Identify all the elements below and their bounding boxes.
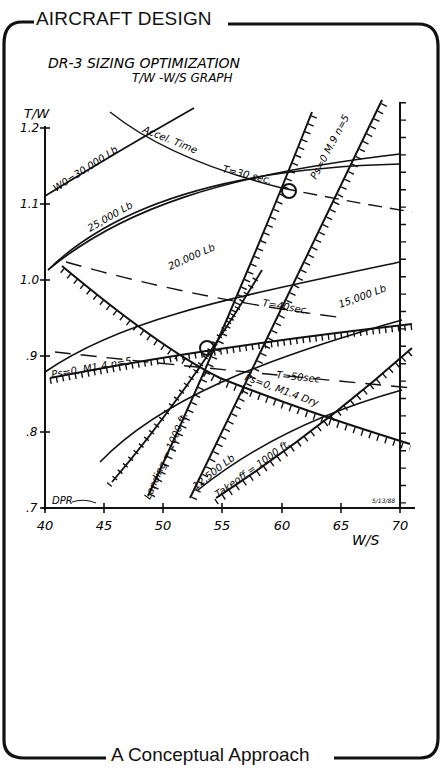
y-tick-1.0: 1.0 xyxy=(20,273,39,287)
x-tick-40: 40 xyxy=(37,518,54,533)
curve-20000 xyxy=(45,262,400,372)
x-tick-labels: 40 45 50 55 60 65 70 xyxy=(37,518,409,533)
figure-title-line2: T/W -W/S GRAPH xyxy=(132,71,233,85)
curve-labels: W0=30,000 Lb 25,000 Lb 20,000 Lb 15,000 … xyxy=(50,113,387,501)
signature-scrawl xyxy=(72,500,96,503)
constraint-ps0-m14-n5-hatch xyxy=(50,327,412,381)
label-ps0-m09-n5: Ps=0 M.9 n=5 xyxy=(308,113,351,181)
chart-canvas: DR-3 SIZING OPTIMIZATION T/W -W/S GRAPH … xyxy=(0,0,446,774)
page-frame: DR-3 SIZING OPTIMIZATION T/W -W/S GRAPH … xyxy=(0,0,446,774)
x-tick-65: 65 xyxy=(333,518,350,533)
x-tick-60: 60 xyxy=(274,518,291,533)
label-accel-time: Accel. Time xyxy=(140,123,199,155)
y-tick-1.1: 1.1 xyxy=(20,197,39,211)
y-tick-0.9: .9 xyxy=(26,349,37,363)
label-w0-30000: W0=30,000 Lb xyxy=(51,144,120,194)
curve-accel-t30-dashed xyxy=(282,188,412,212)
x-tick-45: 45 xyxy=(96,518,113,533)
y-tick-labels: 1.2 1.1 1.0 .9 .8 .7 xyxy=(20,121,39,515)
x-tick-55: 55 xyxy=(214,518,231,533)
book-subtitle: A Conceptual Approach xyxy=(109,744,312,766)
label-t50: T=50sec xyxy=(276,369,321,385)
x-tick-50: 50 xyxy=(155,518,172,533)
signature: DPR xyxy=(52,495,73,506)
label-ps0-m14-n5: Ps=0, M1.4 n=5 xyxy=(50,355,132,380)
book-title: AIRCRAFT DESIGN xyxy=(34,8,214,30)
constraint-unlabeled-hatch xyxy=(109,273,259,485)
y-tick-0.8: .8 xyxy=(26,425,38,439)
x-axis-label: W/S xyxy=(352,532,380,548)
page-border xyxy=(4,22,438,758)
label-landing: Landing = 1000 ft. xyxy=(142,411,190,501)
y-tick-1.2: 1.2 xyxy=(20,121,39,135)
figure-date: 5/13/88 xyxy=(372,497,395,504)
figure-title-line1: DR-3 SIZING OPTIMIZATION xyxy=(48,55,241,71)
label-15000: 15,000 Lb xyxy=(337,282,388,309)
x-tick-70: 70 xyxy=(392,518,409,533)
y-axis-label: T/W xyxy=(24,106,50,121)
label-20000: 20,000 Lb xyxy=(166,241,216,271)
y-tick-0.7: .7 xyxy=(26,501,38,515)
